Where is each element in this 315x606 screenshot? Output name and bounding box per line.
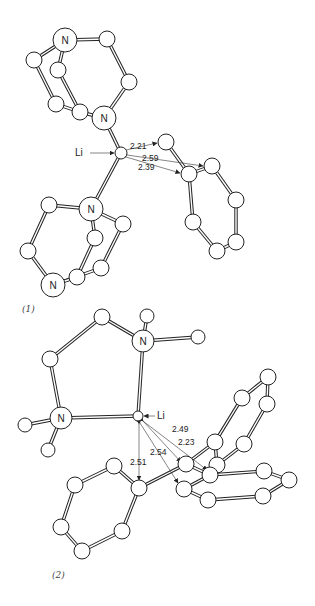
carbon-atom — [181, 166, 197, 182]
carbon-atom — [207, 434, 223, 450]
distance-label: 2.54 — [150, 447, 167, 457]
atoms-group: NN — [18, 309, 297, 559]
lithium-atom — [115, 147, 127, 159]
distance-label: 2.23 — [178, 437, 195, 447]
carbon-atom — [236, 436, 252, 452]
carbon-atom — [87, 230, 103, 246]
carbon-atom — [67, 477, 83, 493]
bonds-group — [25, 316, 289, 551]
carbon-atom — [26, 52, 42, 68]
carbon-atom — [185, 214, 201, 230]
carbon-atom — [69, 269, 85, 285]
atom-label: N — [57, 413, 64, 424]
carbon-atom — [53, 519, 69, 535]
carbon-atom — [259, 396, 275, 412]
carbon-atom — [99, 31, 115, 47]
carbon-atom — [106, 458, 122, 474]
carbon-atom — [94, 309, 110, 325]
lithium-label: Li — [157, 410, 165, 421]
carbon-atom — [204, 158, 220, 174]
carbon-atom — [42, 351, 58, 367]
structure-caption: (1) — [22, 304, 35, 314]
distance-label: 2.49 — [172, 424, 189, 434]
atoms-group: NNNN — [20, 28, 244, 297]
carbon-atom — [260, 369, 276, 385]
carbon-atom — [178, 456, 194, 472]
atom-label: N — [49, 280, 56, 291]
carbon-atom — [93, 260, 109, 276]
carbon-atom — [74, 543, 90, 559]
structure-2-lithium-complex: 2.492.232.542.51 NN Li (2) — [18, 309, 297, 580]
distance-label: 2.51 — [130, 457, 147, 467]
lithium-atom — [133, 411, 143, 421]
carbon-atom — [209, 243, 225, 259]
carbon-atom — [228, 192, 244, 208]
atom-label: N — [87, 204, 94, 215]
carbon-atom — [228, 234, 244, 250]
carbon-atom — [20, 243, 36, 259]
carbon-atom — [140, 309, 154, 323]
carbon-atom — [41, 197, 57, 213]
carbon-atom — [176, 481, 192, 497]
carbon-atom — [202, 467, 218, 483]
molecular-structure-figure: 2.212.592.39 NNNN Li (1) 2.492.232.542.5… — [0, 0, 315, 606]
structure-caption: (2) — [52, 570, 65, 580]
carbon-atom — [255, 488, 271, 504]
atom-label: N — [61, 35, 68, 46]
distance-label: 2.21 — [130, 141, 147, 151]
carbon-atom — [191, 330, 205, 344]
atom-label: N — [139, 336, 146, 347]
carbon-atom — [18, 418, 32, 432]
lithium-label: Li — [75, 147, 83, 158]
carbon-atom — [50, 62, 66, 78]
carbon-atom — [281, 472, 297, 488]
carbon-atom — [41, 443, 55, 457]
atom-label: N — [100, 113, 107, 124]
carbon-atom — [114, 523, 130, 539]
carbon-atom — [200, 492, 216, 508]
structure-1-lithium-complex: 2.212.592.39 NNNN Li (1) — [20, 28, 244, 314]
carbon-atom — [131, 480, 147, 496]
distance-label: 2.39 — [138, 162, 155, 172]
carbon-atom — [48, 96, 64, 112]
carbon-atom — [234, 390, 250, 406]
carbon-atom — [158, 134, 174, 150]
carbon-atom — [72, 104, 88, 120]
carbon-atom — [121, 74, 137, 90]
carbon-atom — [115, 216, 131, 232]
bond-highlight — [50, 317, 102, 359]
carbon-atom — [256, 463, 272, 479]
